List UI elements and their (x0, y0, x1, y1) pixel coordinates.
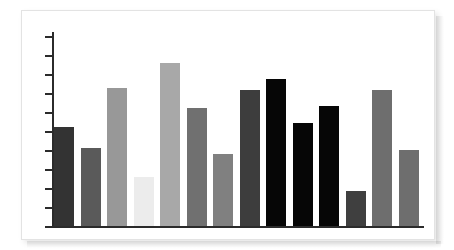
y-axis-tick (45, 150, 54, 152)
y-axis-tick (45, 207, 54, 209)
y-axis-tick (45, 36, 54, 38)
card-shadow-right (436, 16, 444, 244)
y-axis-tick (45, 131, 54, 133)
bar[interactable] (160, 63, 180, 226)
y-axis-tick (45, 112, 54, 114)
chart-card (21, 10, 435, 240)
bar[interactable] (372, 90, 392, 226)
y-axis-tick (45, 169, 54, 171)
bar-series (54, 32, 424, 226)
x-axis-line (52, 226, 424, 228)
bar[interactable] (293, 123, 313, 226)
bar[interactable] (319, 106, 339, 226)
bar[interactable] (134, 177, 154, 226)
card-shadow-bottom (27, 241, 441, 248)
y-axis-tick (45, 74, 54, 76)
y-axis-tick (45, 188, 54, 190)
bar[interactable] (266, 79, 286, 226)
bar[interactable] (81, 148, 101, 226)
screenshot-root (0, 0, 454, 250)
bar[interactable] (213, 154, 233, 226)
bar[interactable] (240, 90, 260, 226)
bar[interactable] (54, 127, 74, 226)
bar[interactable] (346, 191, 366, 226)
y-axis-tick (45, 55, 54, 57)
y-axis-tick (45, 226, 54, 228)
bar[interactable] (399, 150, 419, 226)
chart-plot-area (32, 32, 426, 228)
y-axis-tick (45, 93, 54, 95)
bar[interactable] (107, 88, 127, 226)
bar[interactable] (187, 108, 207, 226)
